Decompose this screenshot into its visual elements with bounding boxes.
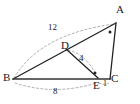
geometry-figure: A B C D E 12 4 8 1 xyxy=(0,0,140,104)
vertex-label-E: E xyxy=(93,80,100,91)
measure-label-BE: 8 xyxy=(53,87,58,96)
angle-marker-E-dot xyxy=(94,72,97,75)
figure-canvas xyxy=(0,0,140,104)
measure-label-BA: 12 xyxy=(48,23,57,32)
vertex-label-B: B xyxy=(3,72,10,83)
measure-label-DE: 4 xyxy=(79,54,84,63)
vertex-label-C: C xyxy=(111,73,118,84)
measure-label-EC: 1 xyxy=(103,80,107,88)
line-segment-BA xyxy=(13,23,116,79)
angle-marker-A-dot xyxy=(109,31,112,34)
vertex-label-D: D xyxy=(61,40,69,51)
vertex-label-A: A xyxy=(116,4,124,15)
